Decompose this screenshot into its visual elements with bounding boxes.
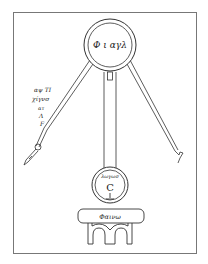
right-arm (127, 60, 178, 151)
left-hand-icon (24, 144, 41, 165)
diagram-canvas: Φ ι αγλ λωγωσ C Φαινω αψ ΤΙ χίγνσ ατ Λ F (0, 0, 208, 264)
top-circle-label: Φ ι αγλ (93, 40, 127, 50)
central-column (104, 72, 116, 170)
svg-text:χίγνσ: χίγνσ (31, 95, 50, 103)
svg-text:ατ: ατ (38, 105, 44, 111)
base-plate: Φαινω (78, 209, 144, 223)
right-hand-icon (175, 151, 183, 163)
lower-circle: λωγωσ C (92, 167, 128, 203)
svg-text:F: F (39, 120, 45, 127)
left-arm (36, 60, 93, 147)
lower-circle-top-label: λωγωσ (100, 173, 119, 180)
base-plate-label: Φαινω (99, 213, 121, 221)
lower-circle-letter: C (106, 182, 114, 193)
top-circle: Φ ι αγλ (84, 19, 136, 71)
svg-text:αψ ΤΙ: αψ ΤΙ (34, 86, 52, 94)
svg-text:Λ: Λ (38, 112, 44, 119)
base-arches (88, 223, 132, 244)
